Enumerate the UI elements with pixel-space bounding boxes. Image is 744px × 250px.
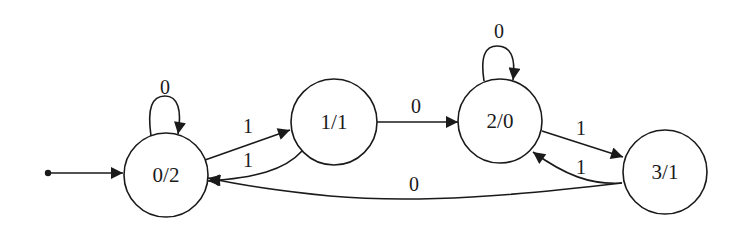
- edge-label: 0: [411, 95, 421, 117]
- state-label: 1/1: [321, 110, 348, 134]
- state-node-0-2: 0/2: [124, 133, 208, 217]
- start-arrow: [45, 170, 123, 176]
- edge-label: 1: [243, 149, 253, 171]
- edge-2-0-self-loop: 0: [483, 20, 514, 81]
- edge-3-1-to-0-2: 0: [208, 173, 622, 199]
- state-node-1-1: 1/1: [291, 79, 377, 165]
- edge-label: 1: [576, 117, 586, 139]
- edge-1-1-to-2-0: 0: [377, 95, 458, 122]
- state-label: 0/2: [153, 163, 180, 187]
- state-label: 2/0: [487, 109, 514, 133]
- state-label: 3/1: [652, 160, 679, 184]
- state-node-3-1: 3/1: [623, 130, 707, 214]
- state-node-2-0: 2/0: [458, 79, 542, 163]
- edge-2-0-to-3-1: 1: [542, 117, 623, 157]
- edge-label: 0: [160, 76, 170, 98]
- edge-label: 0: [494, 20, 504, 42]
- edge-label: 1: [243, 115, 253, 137]
- edge-label: 1: [576, 156, 586, 178]
- state-diagram: 0 1 1 0 0 1 1 0 0/2 1/1 2/0: [0, 0, 744, 250]
- edge-label: 0: [409, 173, 419, 195]
- edge-3-1-to-2-0: 1: [533, 152, 622, 183]
- edge-0-2-self-loop: 0: [150, 76, 180, 136]
